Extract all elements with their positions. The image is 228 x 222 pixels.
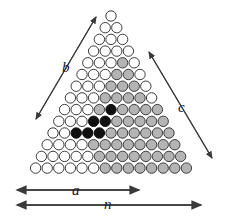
- dot-black: [100, 116, 110, 126]
- label-c: c: [178, 100, 185, 115]
- dot-white: [88, 46, 98, 56]
- dot-gray: [152, 128, 162, 138]
- dot-gray: [117, 58, 127, 68]
- dot-gray: [117, 128, 127, 138]
- dot-gray: [123, 163, 133, 173]
- triangle-dot-diagram: [0, 0, 228, 222]
- dot-white: [71, 104, 81, 114]
- dot-white: [65, 163, 75, 173]
- dot-gray: [106, 151, 116, 161]
- dot-gray: [135, 116, 145, 126]
- dot-gray: [106, 128, 116, 138]
- dot-gray: [158, 163, 168, 173]
- dot-gray: [117, 81, 127, 91]
- dot-white: [30, 163, 40, 173]
- dot-white: [65, 93, 75, 103]
- dot-white: [135, 69, 145, 79]
- dot-white: [71, 81, 81, 91]
- dot-gray: [146, 116, 156, 126]
- dot-white: [65, 116, 75, 126]
- dot-white: [42, 140, 52, 150]
- dot-white: [36, 151, 46, 161]
- dot-gray: [129, 128, 139, 138]
- dot-gray: [135, 163, 145, 173]
- dot-white: [94, 58, 104, 68]
- dot-gray: [129, 81, 139, 91]
- dot-gray: [158, 140, 168, 150]
- dot-white: [83, 58, 93, 68]
- dot-white: [100, 23, 110, 33]
- dot-black: [83, 128, 93, 138]
- dot-white: [106, 11, 116, 21]
- dot-gray: [135, 140, 145, 150]
- dot-white: [106, 58, 116, 68]
- dot-gray: [175, 151, 185, 161]
- dot-gray: [100, 163, 110, 173]
- dot-gray: [123, 140, 133, 150]
- dot-gray: [94, 104, 104, 114]
- dot-gray: [181, 163, 191, 173]
- dot-white: [83, 81, 93, 91]
- dot-white: [88, 93, 98, 103]
- dot-white: [59, 128, 69, 138]
- dot-gray: [152, 151, 162, 161]
- dot-white: [54, 163, 64, 173]
- dot-gray: [117, 151, 127, 161]
- dot-gray: [146, 140, 156, 150]
- dot-gray: [129, 104, 139, 114]
- dot-gray: [112, 163, 122, 173]
- dot-white: [77, 69, 87, 79]
- dot-gray: [94, 151, 104, 161]
- dot-white: [146, 93, 156, 103]
- dot-gray: [146, 163, 156, 173]
- dot-white: [77, 140, 87, 150]
- dot-gray: [141, 128, 151, 138]
- dot-gray: [123, 116, 133, 126]
- dot-gray: [100, 140, 110, 150]
- dot-black: [106, 104, 116, 114]
- dot-black: [94, 128, 104, 138]
- dot-gray: [164, 151, 174, 161]
- dot-gray: [123, 93, 133, 103]
- dot-gray: [129, 151, 139, 161]
- dot-white: [48, 128, 58, 138]
- dot-white: [59, 151, 69, 161]
- dot-white: [77, 116, 87, 126]
- dot-white: [77, 163, 87, 173]
- dot-white: [112, 23, 122, 33]
- dot-black: [88, 116, 98, 126]
- dot-white: [94, 81, 104, 91]
- dot-array: [30, 11, 191, 174]
- dot-gray: [112, 140, 122, 150]
- dot-white: [54, 140, 64, 150]
- dot-gray: [117, 104, 127, 114]
- figure-canvas: b c a n: [0, 0, 228, 222]
- dot-gray: [88, 140, 98, 150]
- dot-white: [88, 69, 98, 79]
- dot-white: [54, 116, 64, 126]
- dot-gray: [123, 69, 133, 79]
- label-b: b: [62, 60, 70, 75]
- dot-white: [117, 34, 127, 44]
- dot-gray: [170, 163, 180, 173]
- dot-white: [100, 69, 110, 79]
- dot-gray: [141, 151, 151, 161]
- dot-white: [123, 46, 133, 56]
- dot-white: [100, 46, 110, 56]
- dot-white: [42, 163, 52, 173]
- dot-gray: [141, 104, 151, 114]
- dot-gray: [106, 81, 116, 91]
- label-a: a: [72, 183, 80, 198]
- dot-gray: [112, 93, 122, 103]
- dot-white: [77, 93, 87, 103]
- dot-white: [83, 104, 93, 114]
- dot-white: [141, 81, 151, 91]
- dot-gray: [112, 116, 122, 126]
- dot-white: [88, 163, 98, 173]
- dot-white: [59, 104, 69, 114]
- dot-gray: [152, 104, 162, 114]
- dot-white: [94, 34, 104, 44]
- dot-gray: [164, 128, 174, 138]
- dot-white: [71, 151, 81, 161]
- dot-white: [129, 58, 139, 68]
